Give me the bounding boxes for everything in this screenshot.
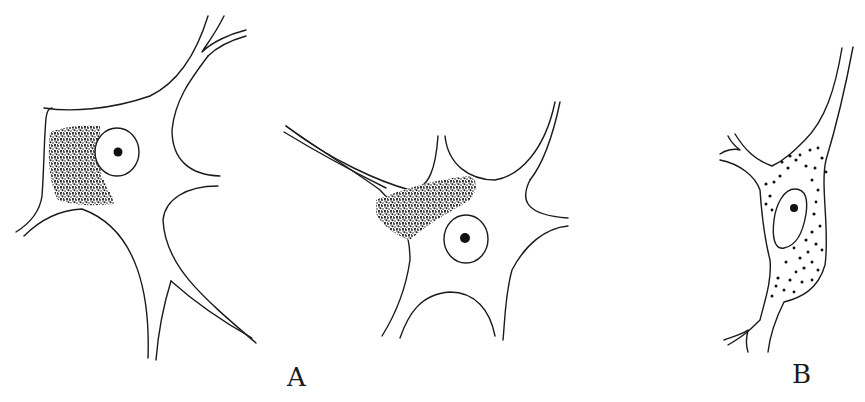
nucleolus <box>114 148 123 157</box>
label-a: A <box>287 364 306 390</box>
neuron-cell-3 <box>720 47 853 352</box>
label-b: B <box>792 361 811 387</box>
neuron-cell-2 <box>284 102 568 340</box>
neuron-cell-1 <box>16 16 256 360</box>
nucleolus <box>460 233 470 243</box>
neuron-illustration <box>0 0 865 402</box>
nucleus <box>773 189 806 248</box>
nucleolus <box>790 204 798 212</box>
